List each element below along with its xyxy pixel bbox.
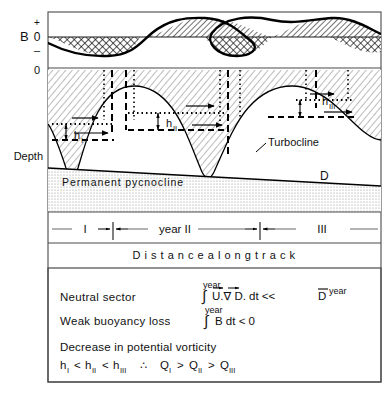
section-top-tick-zero: 0: [34, 64, 40, 76]
note-expr-vorticity: h I < h II < h III ∴ Q I > Q II > Q III: [60, 359, 235, 375]
svg-text:>: >: [177, 359, 184, 371]
buoyancy-negative-lobe-b: [205, 37, 272, 56]
pycnocline-depth-label-D: D: [320, 169, 329, 183]
svg-text:II: II: [173, 124, 177, 133]
svg-text:h: h: [60, 359, 66, 371]
depth-axis-label: Depth: [14, 150, 43, 162]
note-expr-neutral-sector: U.∇ D. dt <<: [212, 290, 276, 302]
svg-text:II: II: [92, 366, 96, 375]
sector-label-three: III: [317, 223, 327, 235]
note-expr-weak-buoyancy: B dt < 0: [215, 315, 255, 327]
turbocline-label: Turbocline: [268, 136, 319, 148]
svg-text:h: h: [322, 95, 328, 107]
svg-text:h: h: [85, 359, 91, 371]
panel-axis: I year II III D i s t a n c e a l o n g …: [48, 222, 381, 261]
turbocline-leader-line: [256, 143, 266, 152]
svg-text:I: I: [67, 366, 69, 375]
sector-label-two: year II: [159, 223, 191, 235]
svg-text:Q: Q: [189, 359, 198, 371]
buoyancy-tick-plus: +: [34, 17, 40, 28]
figure-root: B + 0 –: [0, 0, 391, 394]
note-rhs-neutral-sector: D: [318, 290, 326, 302]
svg-text:h: h: [74, 129, 80, 141]
svg-text:>: >: [208, 359, 215, 371]
svg-text:∴: ∴: [140, 359, 147, 371]
svg-text:I: I: [81, 136, 83, 145]
svg-text:Q: Q: [160, 359, 169, 371]
buoyancy-axis-label: B: [20, 29, 29, 44]
sector-label-one: I: [83, 223, 86, 235]
distance-axis-label: D i s t a n c e a l o n g t r a c k: [132, 249, 295, 261]
panel-buoyancy: B + 0 –: [20, 17, 381, 57]
svg-text:<: <: [74, 359, 81, 371]
permanent-pycnocline-region: [48, 168, 381, 212]
panel-notes: Neutral sector year ∫ U.∇ D. dt << D yea…: [48, 268, 381, 382]
svg-text:III: III: [329, 102, 335, 111]
svg-text:III: III: [229, 366, 235, 375]
note-rhs-sup-neutral-sector: year: [329, 286, 347, 296]
svg-text:h: h: [166, 117, 172, 129]
svg-text:Q: Q: [220, 359, 229, 371]
svg-text:II: II: [198, 366, 202, 375]
panel-section: h I h II h III Turbocline Permanent pycn…: [14, 64, 381, 212]
svg-text:h: h: [113, 359, 119, 371]
svg-text:I: I: [169, 366, 171, 375]
buoyancy-tick-zero: 0: [34, 30, 41, 44]
note-label-neutral-sector: Neutral sector: [60, 291, 136, 303]
note-label-weak-buoyancy: Weak buoyancy loss: [60, 315, 171, 327]
buoyancy-tick-minus: –: [34, 44, 41, 56]
svg-text:<: <: [102, 359, 109, 371]
note-heading-vorticity: Decrease in potential vorticity: [60, 341, 216, 353]
svg-text:III: III: [120, 366, 126, 375]
permanent-pycnocline-label: Permanent pycnocline: [62, 176, 184, 188]
